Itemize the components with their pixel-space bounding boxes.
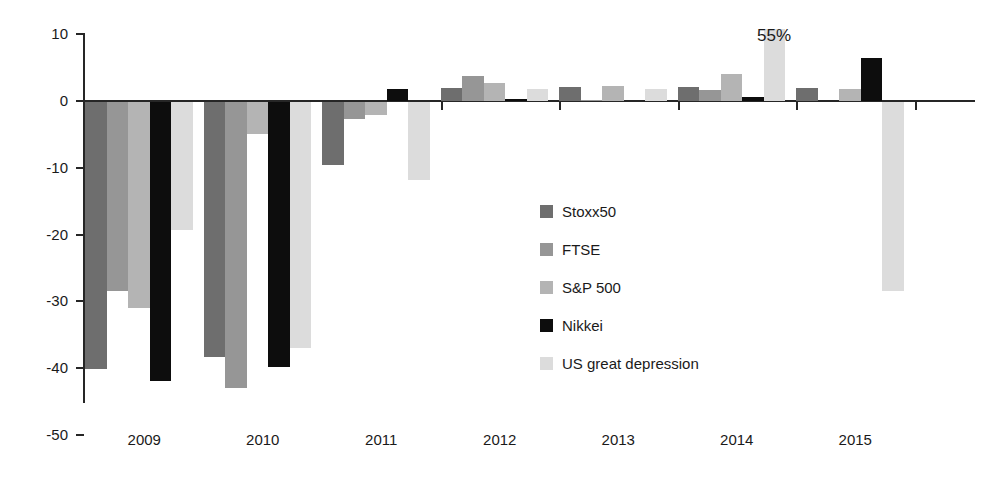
y-tick-6 — [76, 434, 84, 436]
y-tick-3 — [76, 234, 84, 236]
bar — [408, 102, 430, 180]
x-axis-label-2010: 2010 — [204, 432, 323, 447]
x-tick-7 — [915, 102, 917, 110]
x-axis-label-2009: 2009 — [85, 432, 204, 447]
y-tick-label-wrap: -30 — [4, 301, 68, 302]
bar — [290, 102, 312, 348]
legend-item-3: Nikkei — [540, 306, 699, 344]
bar — [882, 102, 904, 291]
bar — [247, 102, 269, 134]
legend-label: Stoxx50 — [562, 204, 616, 219]
legend-item-2: S&P 500 — [540, 268, 699, 306]
bar — [581, 100, 603, 101]
y-tick-label-wrap: 10 — [4, 34, 68, 35]
bar — [204, 102, 226, 357]
x-tick-4 — [559, 102, 561, 110]
bar — [721, 74, 743, 101]
bar — [268, 102, 290, 367]
legend-swatch-icon — [540, 281, 553, 294]
y-tick-label-wrap: 0 — [4, 101, 68, 102]
bar — [678, 87, 700, 101]
x-axis-label-2015: 2015 — [796, 432, 915, 447]
bar — [602, 86, 624, 101]
bar — [150, 102, 172, 381]
legend-item-1: FTSE — [540, 230, 699, 268]
x-tick-5 — [678, 102, 680, 110]
bar — [387, 89, 409, 101]
y-tick-2 — [76, 167, 84, 169]
y-tick-label-wrap: -10 — [4, 168, 68, 169]
legend: Stoxx50FTSES&P 500NikkeiUS great depress… — [540, 192, 699, 382]
bar — [839, 89, 861, 101]
bar — [796, 88, 818, 101]
legend-swatch-icon — [540, 357, 553, 370]
x-axis-label-2012: 2012 — [441, 432, 560, 447]
bar — [742, 97, 764, 101]
bar — [527, 89, 549, 101]
bar — [171, 102, 193, 230]
annotation-55-percent: 55% — [757, 27, 791, 44]
y-tick-label-wrap: -20 — [4, 235, 68, 236]
legend-label: Nikkei — [562, 318, 603, 333]
bar — [107, 102, 129, 291]
bar — [365, 102, 387, 115]
y-tick-label: -20 — [12, 227, 68, 242]
legend-item-4: US great depression — [540, 344, 699, 382]
y-tick-label: 0 — [12, 93, 68, 108]
bar — [559, 87, 581, 101]
bar — [484, 83, 506, 101]
bar — [699, 90, 721, 101]
legend-label: S&P 500 — [562, 280, 621, 295]
bar-chart: 100-10-20-30-40-50 200920102011201220132… — [0, 0, 987, 480]
y-tick-label-wrap: -40 — [4, 368, 68, 369]
plot-area: 100-10-20-30-40-50 200920102011201220132… — [0, 0, 987, 480]
x-tick-6 — [796, 102, 798, 110]
bar — [344, 102, 366, 119]
bar — [861, 58, 883, 101]
legend-label: US great depression — [562, 356, 699, 371]
x-axis-label-2014: 2014 — [678, 432, 797, 447]
y-tick-label: -30 — [12, 293, 68, 308]
y-tick-1 — [76, 100, 84, 102]
bar — [441, 88, 463, 101]
y-tick-label: -10 — [12, 160, 68, 175]
legend-swatch-icon — [540, 319, 553, 332]
bar — [505, 99, 527, 101]
y-tick-label-wrap: -50 — [4, 435, 68, 436]
bar — [85, 102, 107, 369]
bar — [225, 102, 247, 388]
y-tick-4 — [76, 300, 84, 302]
y-tick-label: -50 — [12, 427, 68, 442]
y-tick-5 — [76, 367, 84, 369]
y-tick-0 — [76, 33, 84, 35]
legend-swatch-icon — [540, 205, 553, 218]
bar — [645, 89, 667, 101]
x-axis-label-2013: 2013 — [559, 432, 678, 447]
bar — [322, 102, 344, 165]
bar — [462, 76, 484, 101]
legend-item-0: Stoxx50 — [540, 192, 699, 230]
bar — [128, 102, 150, 308]
y-tick-label: -40 — [12, 360, 68, 375]
x-axis-label-2011: 2011 — [322, 432, 441, 447]
y-tick-label: 10 — [12, 26, 68, 41]
legend-swatch-icon — [540, 243, 553, 256]
x-tick-3 — [441, 102, 443, 110]
legend-label: FTSE — [562, 242, 600, 257]
